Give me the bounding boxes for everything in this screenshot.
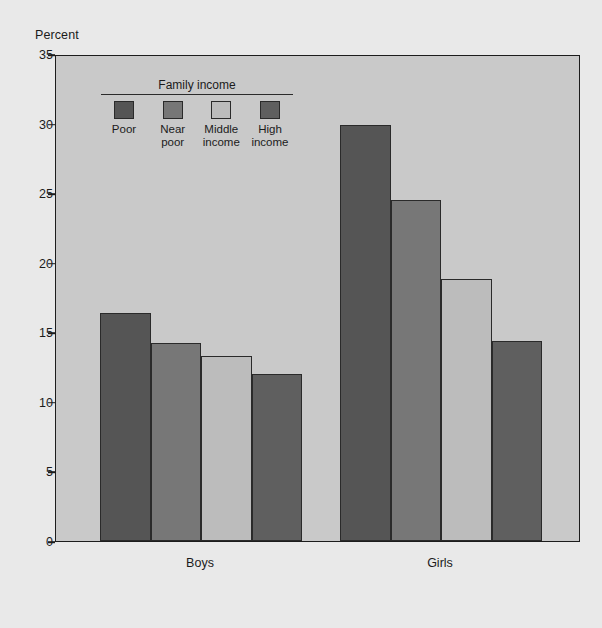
legend-swatch bbox=[114, 101, 134, 119]
x-axis-category-label: Boys bbox=[186, 556, 214, 570]
bar bbox=[100, 313, 151, 541]
legend-item: Middle income bbox=[198, 101, 244, 148]
legend-label: Near poor bbox=[160, 123, 185, 148]
legend-label: Poor bbox=[112, 123, 136, 136]
bar bbox=[441, 279, 492, 541]
legend-swatch bbox=[163, 101, 183, 119]
legend-label: Middle income bbox=[203, 123, 240, 148]
legend-label: High income bbox=[251, 123, 288, 148]
bar bbox=[151, 343, 202, 541]
legend-swatch bbox=[211, 101, 231, 119]
legend-items: PoorNear poorMiddle incomeHigh income bbox=[101, 101, 293, 148]
legend-divider bbox=[101, 94, 293, 95]
legend-title: Family income bbox=[101, 78, 293, 92]
bar bbox=[340, 125, 391, 541]
legend-item: High income bbox=[247, 101, 293, 148]
y-axis-tick-mark bbox=[48, 402, 55, 404]
y-axis-title: Percent bbox=[35, 28, 79, 42]
y-axis-tick-mark bbox=[48, 263, 55, 265]
chart-figure: Percent 05101520253035 BoysGirls Family … bbox=[0, 0, 602, 628]
bar bbox=[201, 356, 252, 541]
y-axis-tick-mark bbox=[48, 54, 55, 56]
legend-item: Near poor bbox=[150, 101, 196, 148]
y-axis-tick-mark bbox=[48, 124, 55, 126]
x-axis-category-label: Girls bbox=[427, 556, 453, 570]
y-axis-tick-mark bbox=[48, 332, 55, 334]
bar bbox=[492, 341, 543, 541]
legend-item: Poor bbox=[101, 101, 147, 136]
bar bbox=[252, 374, 303, 541]
legend: Family income PoorNear poorMiddle income… bbox=[101, 78, 293, 148]
y-axis-tick-mark bbox=[48, 193, 55, 195]
y-axis-tick-mark bbox=[48, 541, 55, 543]
legend-swatch bbox=[260, 101, 280, 119]
y-axis-tick-mark bbox=[48, 472, 55, 474]
bar bbox=[391, 200, 442, 541]
